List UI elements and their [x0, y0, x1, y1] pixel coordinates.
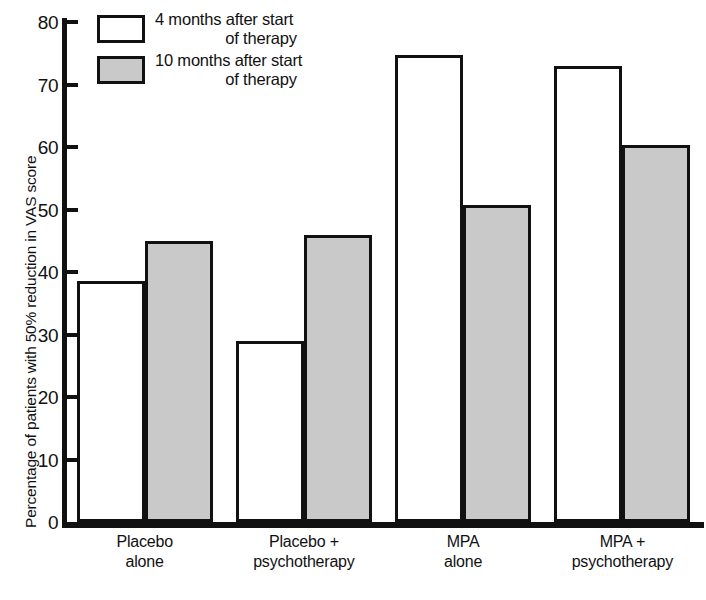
plot-area — [62, 22, 702, 522]
bar-series1-group1[interactable] — [77, 281, 145, 522]
legend-label-line2: of therapy — [155, 70, 367, 89]
x-axis-label-group4: MPA +psychotherapy — [532, 532, 706, 572]
legend-label: 4 months after startof therapy — [155, 10, 367, 48]
y-axis-tick-mark — [67, 145, 78, 149]
chart-legend: 4 months after startof therapy10 months … — [97, 12, 367, 94]
legend-item-1[interactable]: 4 months after startof therapy — [97, 12, 367, 52]
bar-series2-group2[interactable] — [304, 235, 372, 523]
y-axis-tick-label: 30 — [24, 325, 58, 344]
legend-swatch-white — [97, 15, 145, 43]
figure-caption — [0, 588, 706, 600]
x-axis-label-line1: Placebo — [55, 532, 235, 552]
y-axis-tick-label: 40 — [24, 263, 58, 282]
bar-series2-group1[interactable] — [145, 241, 213, 522]
x-axis-label-group3: MPAalone — [373, 532, 553, 572]
x-axis-label-line1: MPA + — [532, 532, 706, 552]
bar-chart-figure: Percentage of patients with 50% reductio… — [0, 0, 706, 600]
x-axis-category-labels: PlaceboalonePlacebo +psychotherapyMPAalo… — [62, 532, 702, 582]
y-axis-tick-label: 80 — [24, 13, 58, 32]
x-axis-label-line2: psychotherapy — [532, 552, 706, 572]
y-axis-tick-mark — [67, 208, 78, 212]
legend-label-line1: 10 months after start — [155, 51, 367, 70]
y-axis-tick-mark — [67, 20, 78, 24]
bar-series1-group4[interactable] — [554, 66, 622, 522]
legend-label-line2: of therapy — [155, 29, 367, 48]
bar-series2-group3[interactable] — [463, 205, 531, 523]
x-axis-label-line2: alone — [55, 552, 235, 572]
legend-swatch-gray — [97, 56, 145, 84]
x-axis-label-line1: MPA — [373, 532, 553, 552]
legend-label: 10 months after startof therapy — [155, 51, 367, 89]
x-axis-label-line1: Placebo + — [214, 532, 394, 552]
bar-series1-group2[interactable] — [236, 341, 304, 522]
y-axis-tick-label: 70 — [24, 75, 58, 94]
y-axis-tick-label: 50 — [24, 200, 58, 219]
bars-container — [65, 22, 702, 522]
legend-item-2[interactable]: 10 months after startof therapy — [97, 53, 367, 93]
y-axis-tick-label: 20 — [24, 388, 58, 407]
bar-series2-group4[interactable] — [622, 145, 690, 523]
x-axis-label-line2: alone — [373, 552, 553, 572]
x-axis-line — [62, 522, 704, 528]
x-axis-label-line2: psychotherapy — [214, 552, 394, 572]
y-axis-tick-label: 60 — [24, 138, 58, 157]
y-axis-tick-mark — [67, 270, 78, 274]
y-axis-tick-labels: 01020304050607080 — [24, 0, 58, 560]
y-axis-tick-mark — [67, 83, 78, 87]
legend-label-line1: 4 months after start — [155, 10, 367, 29]
x-axis-label-group1: Placeboalone — [55, 532, 235, 572]
bar-series1-group3[interactable] — [395, 55, 463, 523]
x-axis-label-group2: Placebo +psychotherapy — [214, 532, 394, 572]
y-axis-tick-label: 0 — [24, 513, 58, 532]
y-axis-tick-label: 10 — [24, 450, 58, 469]
